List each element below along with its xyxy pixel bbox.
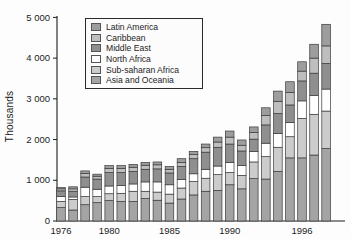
x-tick-label: 1985 [159, 225, 180, 236]
bar-segment-1978 [81, 177, 90, 187]
bar-segment-1984 [153, 162, 162, 165]
bar-segment-1980 [105, 168, 114, 172]
bar-segment-1984 [153, 192, 162, 200]
bar-segment-1986 [177, 159, 186, 163]
bar-segment-1977 [69, 197, 78, 199]
bar-segment-1998 [322, 89, 331, 111]
bar-segment-1986 [177, 162, 186, 166]
bar-segment-1991 [237, 140, 246, 145]
legend-label: Latin America [106, 22, 158, 32]
y-tick-label: 1 000 [26, 174, 50, 185]
legend-item-asia-and-oceania: Asia and Oceania [91, 75, 197, 86]
bar-segment-1982 [129, 167, 138, 171]
bar-segment-1989 [213, 142, 222, 147]
y-tick-label: 2 000 [26, 134, 50, 145]
x-tick-label: 1996 [291, 225, 312, 236]
bar-segment-1988 [201, 144, 210, 148]
y-axis-title: Thousands [4, 77, 15, 157]
bar-segment-1985 [165, 169, 174, 173]
bar-segment-1997 [310, 114, 319, 155]
bar-segment-1981 [117, 201, 126, 221]
bar-segment-1986 [177, 166, 186, 179]
y-tick-label: 3 000 [26, 93, 50, 104]
bar-segment-1992 [250, 162, 259, 179]
legend-item-north-africa: North Africa [91, 54, 197, 65]
legend-label: Caribbean [106, 33, 146, 43]
bar-segment-1989 [213, 166, 222, 175]
bar-segment-1981 [117, 166, 126, 169]
bar-segment-1990 [225, 144, 234, 162]
bar-segment-1979 [93, 179, 102, 189]
bar-segment-1992 [250, 151, 259, 162]
bar-segment-1979 [93, 174, 102, 176]
bar-segment-1989 [213, 147, 222, 166]
bar-segment-1996 [298, 118, 307, 157]
bar-segment-1994 [274, 133, 283, 147]
bar-segment-1987 [189, 155, 198, 159]
bar-segment-1990 [225, 185, 234, 221]
bar-segment-1998 [322, 24, 331, 46]
bar-segment-1982 [129, 164, 138, 167]
bar-segment-1997 [310, 155, 319, 221]
legend-label: Sub-saharan Africa [106, 65, 179, 75]
legend-item-latin-america: Latin America [91, 22, 197, 33]
bar-segment-1977 [69, 189, 78, 191]
bar-segment-1983 [141, 165, 150, 169]
bar-segment-1982 [129, 171, 138, 184]
bar-segment-1983 [141, 162, 150, 165]
bar-segment-1978 [81, 173, 90, 177]
bar-segment-1976 [57, 188, 66, 189]
bar-segment-1994 [274, 171, 283, 221]
bar-segment-1996 [298, 101, 307, 119]
bar-segment-1985 [165, 203, 174, 221]
bar-segment-1991 [237, 145, 246, 151]
bar-segment-1985 [165, 173, 174, 185]
bar-segment-1994 [274, 91, 283, 101]
bar-segment-1978 [81, 197, 90, 205]
bar-segment-1987 [189, 159, 198, 174]
bar-segment-1983 [141, 199, 150, 221]
bar-segment-1993 [262, 179, 271, 221]
bar-segment-1991 [237, 175, 246, 188]
bar-segment-1977 [69, 210, 78, 221]
bar-segment-1993 [262, 143, 271, 156]
legend-item-sub-saharan-africa: Sub-saharan Africa [91, 64, 197, 75]
bar-segment-1983 [141, 182, 150, 191]
bar-segment-1993 [262, 108, 271, 116]
bar-segment-1985 [165, 194, 174, 203]
bar-segment-1979 [93, 203, 102, 221]
bar-segment-1977 [69, 191, 78, 197]
bar-segment-1995 [286, 92, 295, 105]
bar-segment-1976 [57, 201, 66, 207]
bar-segment-1983 [141, 191, 150, 198]
bar-segment-1984 [153, 200, 162, 221]
bar-segment-1994 [274, 147, 283, 171]
bar-segment-1988 [201, 178, 210, 191]
bar-segment-1998 [322, 111, 331, 148]
legend-label: Asia and Oceania [106, 75, 174, 85]
legend-label: Middle East [106, 43, 151, 53]
bar-segment-1988 [201, 152, 210, 169]
bar-segment-1990 [225, 137, 234, 144]
bar-segment-1984 [153, 169, 162, 182]
bar-segment-1993 [262, 157, 271, 179]
x-tick-label: 1990 [219, 225, 240, 236]
bar-segment-1978 [81, 205, 90, 221]
bar-segment-1976 [57, 191, 66, 197]
bar-segment-1991 [237, 166, 246, 176]
bar-segment-1990 [225, 131, 234, 137]
bar-segment-1996 [298, 81, 307, 101]
legend-swatch-icon [91, 34, 101, 42]
bar-segment-1986 [177, 179, 186, 188]
bar-segment-1982 [129, 201, 138, 221]
bar-segment-1994 [274, 101, 283, 113]
y-tick-label: 5 000 [26, 12, 50, 23]
y-tick-label: 4 000 [26, 52, 50, 63]
bar-segment-1997 [310, 44, 319, 58]
bar-segment-1980 [105, 186, 114, 194]
bar-segment-1976 [57, 208, 66, 221]
bar-segment-1984 [153, 182, 162, 192]
bar-segment-1979 [93, 189, 102, 196]
bar-segment-1989 [213, 175, 222, 191]
bar-segment-1981 [117, 186, 126, 194]
